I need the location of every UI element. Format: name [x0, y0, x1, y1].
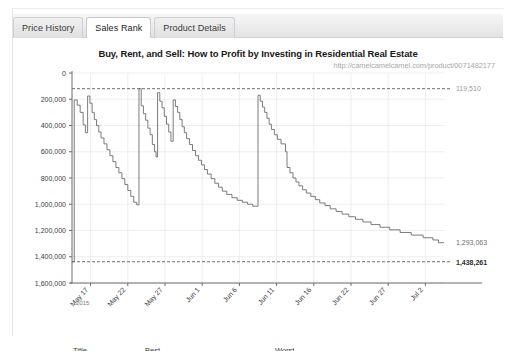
svg-text:May 27: May 27 — [143, 286, 164, 308]
chart-legend: Title Best Worst Sales Rank 119,510 — [73, 346, 361, 351]
legend-header-title: Title — [73, 346, 145, 351]
tab-sales-rank[interactable]: Sales Rank — [86, 17, 151, 38]
svg-text:Jul 2: Jul 2 — [409, 286, 424, 302]
tab-product-details[interactable]: Product Details — [154, 17, 235, 38]
legend-table: Title Best Worst Sales Rank 119,510 — [73, 346, 361, 351]
svg-text:119,510: 119,510 — [456, 85, 481, 92]
legend-header-best: Best — [145, 346, 275, 351]
svg-text:Jun 16: Jun 16 — [293, 286, 312, 306]
svg-text:Jun 11: Jun 11 — [256, 286, 275, 306]
svg-text:Jun 6: Jun 6 — [221, 286, 238, 303]
sales-rank-plot[interactable]: 0200,000400,000600,000800,0001,000,0001,… — [13, 38, 503, 335]
svg-text:400,000: 400,000 — [41, 122, 66, 129]
svg-text:2015: 2015 — [76, 300, 90, 306]
svg-text:0: 0 — [62, 70, 66, 77]
svg-text:1,293,063: 1,293,063 — [456, 239, 487, 246]
page-border-top — [12, 8, 504, 9]
y-tick-labels: 0200,000400,000600,000800,0001,000,0001,… — [35, 70, 66, 287]
legend-header-row: Title Best Worst — [73, 346, 361, 351]
svg-text:200,000: 200,000 — [41, 96, 66, 103]
svg-text:1,000,000: 1,000,000 — [35, 201, 66, 208]
svg-text:800,000: 800,000 — [41, 175, 66, 182]
plot-svg: 0200,000400,000600,000800,0001,000,0001,… — [13, 38, 503, 335]
sales-rank-chart-card: Buy, Rent, and Sell: How to Profit by In… — [13, 38, 503, 335]
x-tick-labels: May 17May 22May 27Jun 1Jun 6Jun 11Jun 16… — [69, 286, 424, 309]
reference-lines — [72, 89, 450, 262]
svg-text:1,600,000: 1,600,000 — [35, 280, 66, 287]
svg-text:1,400,000: 1,400,000 — [35, 253, 66, 260]
value-annotations: 119,5101,293,0631,438,261 — [456, 85, 487, 267]
camelcamelcamel-product-panel: Price History Sales Rank Product Details… — [0, 0, 516, 351]
svg-text:Jun 22: Jun 22 — [330, 286, 349, 306]
svg-text:1,200,000: 1,200,000 — [35, 227, 66, 234]
svg-text:Jun 27: Jun 27 — [368, 286, 387, 306]
legend-header-worst: Worst — [275, 346, 361, 351]
axes — [69, 71, 482, 286]
svg-text:Jun 1: Jun 1 — [184, 286, 201, 303]
tab-price-history[interactable]: Price History — [13, 17, 83, 38]
svg-text:1,438,261: 1,438,261 — [456, 259, 487, 267]
svg-text:May 22: May 22 — [106, 286, 127, 308]
svg-text:600,000: 600,000 — [41, 148, 66, 155]
tab-list: Price History Sales Rank Product Details — [13, 18, 235, 38]
